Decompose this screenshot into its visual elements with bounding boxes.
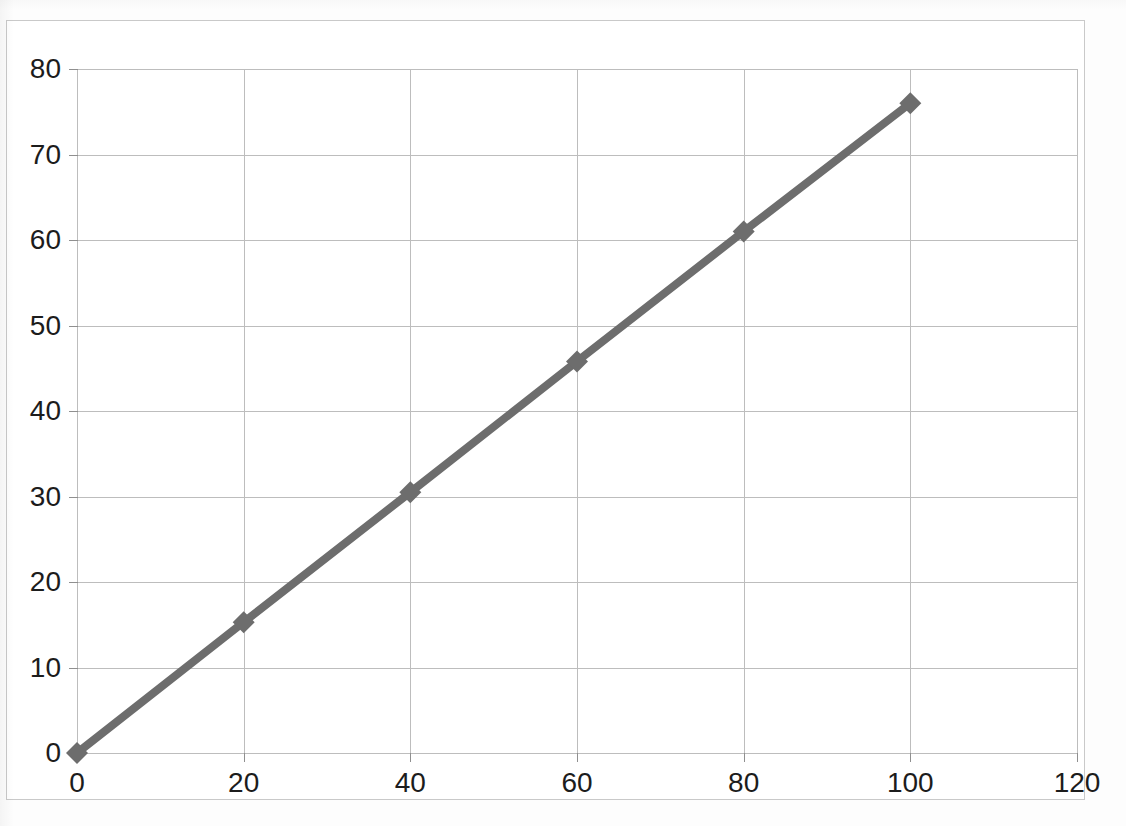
x-axis-tick-labels: 020406080100120 [77,769,1077,809]
x-tick-label-20: 20 [228,769,259,797]
plot-area [77,69,1077,753]
x-tick-label-60: 60 [561,769,592,797]
y-axis-tick-labels: 01020304050607080 [7,69,61,753]
x-tick-mark-100 [910,753,911,762]
x-tick-mark-60 [577,753,578,762]
y-tick-label-70: 70 [30,141,61,169]
y-tick-label-40: 40 [30,397,61,425]
x-tick-label-80: 80 [728,769,759,797]
y-tick-label-10: 10 [30,654,61,682]
series-1-polyline [77,103,910,753]
y-tick-label-20: 20 [30,568,61,596]
y-tick-label-80: 80 [30,55,61,83]
x-tick-mark-40 [410,753,411,762]
gridline-x-120 [1077,69,1078,753]
y-tick-label-60: 60 [30,226,61,254]
x-tick-mark-20 [244,753,245,762]
y-tick-label-50: 50 [30,312,61,340]
y-tick-label-0: 0 [45,739,61,767]
chart-frame: 01020304050607080 020406080100120 [6,20,1085,800]
x-tick-label-40: 40 [395,769,426,797]
x-tick-label-120: 120 [1054,769,1101,797]
x-tick-label-100: 100 [887,769,934,797]
y-tick-label-30: 30 [30,483,61,511]
x-tick-mark-120 [1077,753,1078,762]
data-series-line [77,69,1077,753]
x-tick-mark-80 [744,753,745,762]
x-tick-label-0: 0 [69,769,85,797]
